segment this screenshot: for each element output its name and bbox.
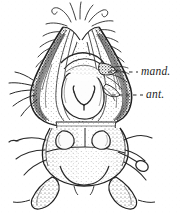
illustration-canvas: [0, 0, 181, 213]
figure-plate: mand. ant.: [0, 0, 181, 213]
label-antenna: ant.: [146, 89, 164, 101]
label-mandible: mand.: [141, 66, 170, 78]
scan-grain: [0, 0, 181, 213]
